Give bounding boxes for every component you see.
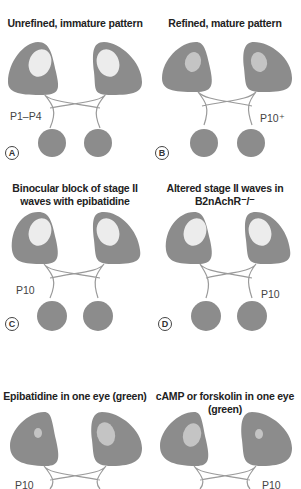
panel-f: cAMP or forskolin in one eye (green) P10 (150, 390, 300, 489)
age-label: P10 (15, 479, 34, 489)
age-label: P1–P4 (10, 110, 42, 122)
eye-lgn-diagram (0, 0, 150, 165)
age-label: P10 (16, 284, 35, 296)
panel-letter: A (5, 146, 19, 160)
eye-lgn-diagram (150, 170, 300, 340)
panel-c: Binocular block of stage II waves with e… (0, 170, 150, 340)
eye-lgn-diagram (150, 0, 300, 165)
age-label: P10 (262, 479, 281, 489)
panel-letter: B (155, 146, 169, 160)
panel-e: Epibatidine in one eye (green) P10 (0, 390, 150, 489)
age-label: P10 (261, 288, 280, 300)
eye-lgn-diagram (0, 170, 150, 340)
eye-lgn-diagram (150, 390, 300, 489)
panel-letter: D (158, 317, 172, 331)
panel-d: Altered stage II waves in B2nAchR⁻/⁻ P10… (150, 170, 300, 340)
age-label: P10⁺ (260, 112, 285, 124)
panel-b: Refined, mature pattern P10⁺ B (150, 0, 300, 165)
panel-a: Unrefined, immature pattern P1–P4 A (0, 0, 150, 165)
panel-letter: C (5, 317, 19, 331)
eye-lgn-diagram (0, 390, 150, 489)
